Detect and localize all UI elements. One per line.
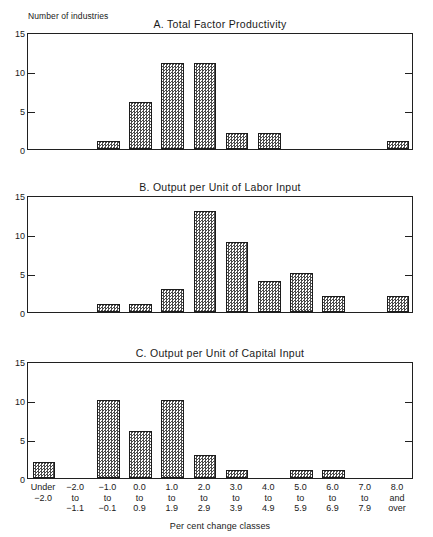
bar xyxy=(387,141,410,149)
bar xyxy=(322,296,345,312)
bar xyxy=(322,470,345,478)
x-axis-category-4: 1.0to1.9 xyxy=(156,482,188,514)
bar xyxy=(226,470,249,478)
panel-a-ytick-10 xyxy=(28,73,35,74)
panel-c-ylabel-0: 0 xyxy=(20,475,25,485)
bar xyxy=(161,289,184,312)
bar xyxy=(97,400,120,478)
bar xyxy=(129,431,152,478)
x-axis-category-7: 4.0to4.9 xyxy=(252,482,284,514)
x-axis-category-0: Under−2.0 xyxy=(27,482,59,503)
bar xyxy=(33,462,56,478)
panel-c-ytick-right-10 xyxy=(405,402,412,403)
panel-a-ytick-5 xyxy=(28,112,35,113)
x-axis-category-2: −1.0to−0.1 xyxy=(91,482,123,514)
bar xyxy=(226,133,249,149)
x-axis-category-1: −2.0to−1.1 xyxy=(59,482,91,514)
panel-c-ytick-5 xyxy=(28,441,35,442)
panel-c-ylabel-5: 5 xyxy=(20,436,25,446)
x-axis-category-6: 3.0to3.9 xyxy=(220,482,252,514)
bar xyxy=(129,304,152,312)
panel-b-title: B. Output per Unit of Labor Input xyxy=(27,181,413,193)
x-axis-title: Per cent change classes xyxy=(27,521,413,531)
x-axis-category-5: 2.0to2.9 xyxy=(188,482,220,514)
panel-a-ylabel-15: 15 xyxy=(15,29,25,39)
bar xyxy=(161,63,184,149)
panel-c-ytick-right-5 xyxy=(405,441,412,442)
panel-b-ytick-right-10 xyxy=(405,236,412,237)
bar xyxy=(387,296,410,312)
panel-b-ylabel-15: 15 xyxy=(15,192,25,202)
panel-a-ylabel-0: 0 xyxy=(20,146,25,156)
panel-b-ylabel-0: 0 xyxy=(20,309,25,319)
x-axis-category-8: 5.0to5.9 xyxy=(284,482,316,514)
panel-a-bars xyxy=(28,34,412,149)
panel-b-ylabel-5: 5 xyxy=(20,270,25,280)
x-axis-category-11: 8.0andover xyxy=(381,482,413,514)
panel-a-plot-area: 051015 xyxy=(27,33,413,150)
bar xyxy=(226,242,249,312)
bar xyxy=(97,304,120,312)
panel-a-title: A. Total Factor Productivity xyxy=(27,18,413,30)
panel-c-bars xyxy=(28,363,412,478)
panel-b-plot-area: 051015 xyxy=(27,196,413,313)
x-axis-category-9: 6.0to6.9 xyxy=(317,482,349,514)
bar xyxy=(194,211,217,312)
bar xyxy=(258,133,281,149)
histogram-figure: Number of industries A. Total Factor Pro… xyxy=(0,0,433,537)
bar xyxy=(97,141,120,149)
bar xyxy=(161,400,184,478)
bar xyxy=(129,102,152,149)
bar xyxy=(290,470,313,478)
panel-b-ytick-5 xyxy=(28,275,35,276)
panel-b-ytick-10 xyxy=(28,236,35,237)
panel-b-ytick-right-5 xyxy=(405,275,412,276)
x-axis-category-3: 0.0to0.9 xyxy=(124,482,156,514)
panel-c-ylabel-15: 15 xyxy=(15,358,25,368)
bar xyxy=(194,455,217,478)
panel-a-ylabel-10: 10 xyxy=(15,68,25,78)
panel-a-ytick-right-5 xyxy=(405,112,412,113)
panel-b-ylabel-10: 10 xyxy=(15,231,25,241)
bar xyxy=(194,63,217,149)
panel-c-ylabel-10: 10 xyxy=(15,397,25,407)
bar xyxy=(258,281,281,312)
x-axis-category-10: 7.0to7.9 xyxy=(349,482,381,514)
panel-a-ylabel-5: 5 xyxy=(20,107,25,117)
panel-b-bars xyxy=(28,197,412,312)
panel-a-ytick-right-10 xyxy=(405,73,412,74)
panel-c-ytick-10 xyxy=(28,402,35,403)
panel-c-title: C. Output per Unit of Capital Input xyxy=(27,347,413,359)
bar xyxy=(290,273,313,312)
panel-c-plot-area: 051015 xyxy=(27,362,413,479)
